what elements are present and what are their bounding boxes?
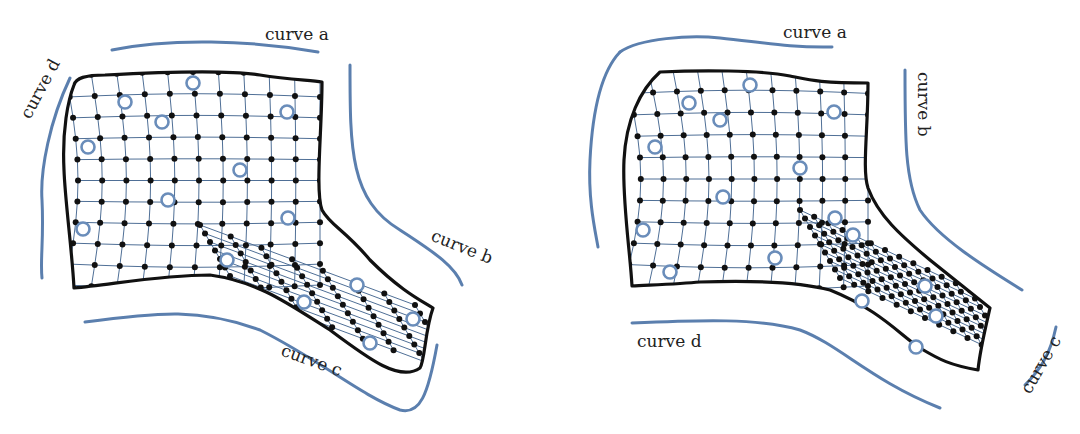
vertex-dot — [196, 156, 202, 162]
vertex-dot — [960, 327, 966, 333]
guide-curve — [85, 314, 437, 411]
vertex-dot — [865, 219, 871, 225]
vertex-dot — [258, 245, 264, 251]
vertex-dot — [893, 283, 899, 289]
vertex-dot — [268, 220, 274, 226]
vertex-dot — [1002, 347, 1008, 353]
vertex-dot — [190, 286, 196, 292]
vertex-dot — [935, 303, 941, 309]
vertex-dot — [842, 176, 848, 182]
vertex-dot — [681, 132, 687, 138]
control-point — [187, 77, 200, 90]
vertex-dot — [878, 257, 884, 263]
vertex-dot — [683, 198, 689, 204]
vertex-dot — [963, 297, 969, 303]
vertex-dot — [841, 68, 847, 74]
vertex-dot — [293, 199, 299, 205]
vertex-dot — [706, 176, 712, 182]
control-point — [364, 337, 377, 350]
vertex-dot — [912, 298, 918, 304]
vertex-dot — [906, 271, 912, 277]
vertex-dot — [442, 353, 448, 359]
vertex-dot — [192, 91, 198, 97]
vertex-dot — [832, 267, 838, 273]
vertex-dot — [267, 92, 273, 98]
vertex-dot — [704, 220, 710, 226]
vertex-dot — [925, 267, 931, 273]
vertex-dot — [841, 284, 847, 290]
curve-c-label: curve c — [1016, 332, 1065, 397]
vertex-dot — [743, 287, 749, 293]
control-point — [351, 279, 364, 292]
vertex-dot — [683, 176, 689, 182]
control-point — [744, 79, 757, 92]
vertex-dot — [797, 198, 803, 204]
vertex-dot — [988, 340, 994, 346]
vertex-dot — [865, 288, 871, 294]
vertex-dot — [317, 219, 323, 225]
vertex-dot — [793, 88, 799, 94]
control-point — [82, 141, 95, 154]
vertex-dot — [795, 242, 801, 248]
vertex-dot — [870, 278, 876, 284]
vertex-dot — [939, 274, 945, 280]
vertex-dot — [194, 243, 200, 249]
control-point — [407, 313, 420, 326]
vertex-dot — [807, 224, 813, 230]
control-point — [77, 223, 90, 236]
vertex-dot — [142, 264, 148, 270]
control-point — [664, 266, 677, 279]
vertex-dot — [268, 199, 274, 205]
vertex-dot — [954, 299, 960, 305]
vertex-dot — [860, 280, 866, 286]
vertex-dot — [727, 220, 733, 226]
vertex-dot — [304, 282, 310, 288]
vertex-dot — [719, 287, 725, 293]
vertex-dot — [196, 178, 202, 184]
vertex-dot — [727, 132, 733, 138]
vertex-dot — [218, 113, 224, 119]
vertex-dot — [898, 291, 904, 297]
curve-b-label: curve b — [429, 225, 496, 268]
vertex-dot — [802, 216, 808, 222]
vertex-dot — [902, 281, 908, 287]
vertex-dot — [842, 154, 848, 160]
vertex-dot — [678, 242, 684, 248]
vertex-dot — [873, 249, 879, 255]
vertex-dot — [242, 91, 248, 97]
vertex-dot — [70, 115, 76, 121]
vertex-dot — [965, 335, 971, 341]
vertex-dot — [661, 176, 667, 182]
vertex-dot — [883, 266, 889, 272]
vertex-dot — [846, 273, 852, 279]
vertex-dot — [837, 275, 843, 281]
vertex-dot — [973, 314, 979, 320]
vertex-dot — [371, 313, 377, 319]
control-point — [714, 114, 727, 127]
vertex-dot — [406, 333, 412, 339]
vertex-dot — [926, 305, 932, 311]
vertex-dot — [701, 110, 707, 116]
vertex-dot — [819, 198, 825, 204]
vertex-dot — [243, 113, 249, 119]
vertex-dot — [851, 282, 857, 288]
vertex-dot — [148, 178, 154, 184]
vertex-dot — [704, 132, 710, 138]
vertex-dot — [855, 253, 861, 259]
vertex-dot — [147, 156, 153, 162]
vertex-dot — [875, 287, 881, 293]
vertex-dot — [273, 270, 279, 276]
vertex-dot — [144, 242, 150, 248]
vertex-dot — [959, 308, 965, 314]
vertex-dot — [771, 110, 777, 116]
vertex-dot — [95, 241, 101, 247]
vertex-dot — [822, 250, 828, 256]
vertex-dot — [268, 113, 274, 119]
vertex-dot — [683, 154, 689, 160]
vertex-dot — [997, 338, 1003, 344]
vertex-dot — [288, 296, 294, 302]
vertex-dot — [950, 328, 956, 334]
vertex-dot — [729, 176, 735, 182]
vertex-dot — [817, 241, 823, 247]
vertex-dot — [882, 247, 888, 253]
